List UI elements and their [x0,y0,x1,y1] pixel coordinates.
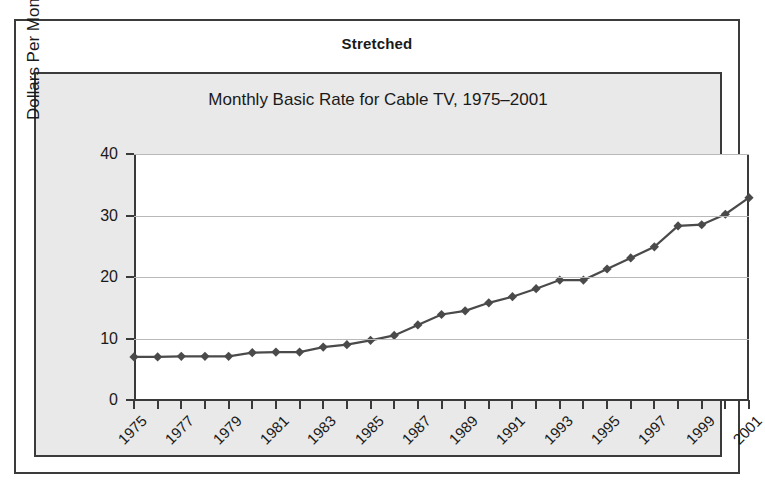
x-tick-label: 1993 [533,412,576,455]
gridline [134,154,749,155]
x-tick-mark [228,400,230,409]
x-tick-label: 2001 [722,412,765,455]
x-tick-mark [370,400,372,409]
x-tick-mark [157,400,159,409]
data-point-marker [626,253,635,262]
x-tick-label: 1999 [675,412,718,455]
figure-caption-band: Stretched [16,21,738,65]
data-point-marker [248,348,257,357]
x-tick-mark [559,400,561,409]
x-tick-mark [653,400,655,409]
data-point-marker [177,352,186,361]
y-axis-label: Dollars Per Month [24,0,44,120]
x-tick-mark [724,400,726,409]
data-point-marker [461,306,470,315]
x-tick-mark [582,400,584,409]
y-tick-mark [126,338,134,340]
x-tick-label: 1987 [391,412,434,455]
y-tick-label-wrap: 40 [72,146,118,162]
x-tick-label: 1989 [438,412,481,455]
y-tick-label: 10 [72,331,118,347]
data-point-marker [697,220,706,229]
x-tick-label: 1995 [580,412,623,455]
y-tick-label-wrap: 30 [72,208,118,224]
plot-area: 0102030401975197719791981198319851987198… [134,154,749,400]
x-tick-mark [417,400,419,409]
y-tick-label: 20 [72,269,118,285]
data-point-marker [437,310,446,319]
y-tick-mark [126,276,134,278]
x-tick-mark [299,400,301,409]
x-tick-mark [488,400,490,409]
x-tick-mark [251,400,253,409]
x-tick-mark [180,400,182,409]
data-point-marker [602,264,611,273]
data-point-marker [271,347,280,356]
data-point-marker [366,336,375,345]
x-tick-label: 1981 [249,412,292,455]
data-point-marker [224,352,233,361]
x-tick-mark [204,400,206,409]
x-tick-label: 1997 [627,412,670,455]
gridline [134,277,749,278]
x-tick-mark [133,400,135,409]
data-point-marker [413,320,422,329]
y-tick-mark [126,215,134,217]
gridline [134,216,749,217]
y-tick-mark [126,153,134,155]
x-tick-mark [275,400,277,409]
x-tick-mark [346,400,348,409]
data-point-marker [319,343,328,352]
x-tick-mark [464,400,466,409]
y-tick-label: 0 [72,392,118,408]
x-tick-label: 1983 [296,412,339,455]
x-tick-mark [606,400,608,409]
x-tick-mark [748,400,750,409]
data-point-marker [532,284,541,293]
data-point-marker [342,340,351,349]
y-tick-label: 30 [72,208,118,224]
x-tick-mark [393,400,395,409]
x-tick-mark [677,400,679,409]
x-tick-mark [701,400,703,409]
x-tick-label: 1985 [343,412,386,455]
data-point-marker [295,347,304,356]
data-point-marker [200,352,209,361]
y-tick-label-wrap: 10 [72,331,118,347]
x-tick-label: 1977 [154,412,197,455]
data-point-marker [153,352,162,361]
figure-outer-panel: Stretched Monthly Basic Rate for Cable T… [14,19,740,474]
y-tick-label: 40 [72,146,118,162]
data-point-marker [484,298,493,307]
x-tick-label: 1975 [107,412,150,455]
x-tick-mark [535,400,537,409]
chart-panel: Monthly Basic Rate for Cable TV, 1975–20… [34,72,722,457]
data-point-marker [508,292,517,301]
y-tick-label-wrap: 20 [72,269,118,285]
gridline [134,339,749,340]
y-tick-label-wrap: 0 [72,392,118,408]
chart-title: Monthly Basic Rate for Cable TV, 1975–20… [36,90,720,110]
x-tick-label: 1991 [485,412,528,455]
x-tick-mark [441,400,443,409]
x-tick-mark [630,400,632,409]
data-point-marker [129,352,138,361]
x-tick-mark [511,400,513,409]
figure-caption: Stretched [342,35,413,52]
x-tick-mark [322,400,324,409]
x-tick-label: 1979 [201,412,244,455]
